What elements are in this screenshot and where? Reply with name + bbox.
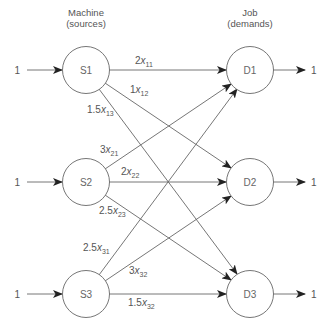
- edge-label-x13: 1.5x13: [87, 104, 114, 117]
- demand-label-d1: 1: [311, 65, 317, 76]
- demands-header-line2: (demands): [227, 18, 272, 29]
- demand-node-d3: D3: [227, 271, 274, 318]
- edge-label-x31: 2.5x31: [83, 242, 110, 255]
- edge-s1-d2: [105, 83, 231, 168]
- node-label: D1: [244, 65, 257, 76]
- edge-s2-d3: [105, 195, 231, 280]
- node-label: S3: [80, 289, 93, 300]
- sources-header-line2: (sources): [66, 18, 106, 29]
- transportation-network-diagram: Machine (sources) Job (demands) 1 1 1 1 …: [0, 0, 330, 328]
- node-label: S1: [80, 65, 93, 76]
- edge-label-x21: 3x21: [100, 144, 118, 157]
- node-label: S2: [80, 177, 93, 188]
- demand-label-d2: 1: [311, 177, 317, 188]
- node-label: D2: [244, 177, 257, 188]
- sources-header: Machine (sources): [66, 7, 106, 29]
- source-node-s2: S2: [63, 159, 110, 206]
- demand-node-d2: D2: [227, 159, 274, 206]
- source-node-s1: S1: [63, 47, 110, 94]
- edge-s3-d2: [105, 196, 231, 281]
- edge-label-x23: 2.5x23: [99, 205, 126, 218]
- demands-header: Job (demands): [227, 7, 272, 29]
- demand-node-d1: D1: [227, 47, 274, 94]
- edge-label-x12: 1x12: [130, 84, 148, 97]
- edge-label-x33: 1.5x32: [128, 297, 155, 310]
- edge-s2-d1: [105, 84, 231, 169]
- node-label: D3: [244, 289, 257, 300]
- supply-label-s3: 1: [14, 289, 20, 300]
- edge-label-x22: 2x22: [121, 166, 139, 179]
- edge-label-x11: 2x11: [135, 55, 153, 68]
- demand-label-d3: 1: [311, 289, 317, 300]
- demands-header-line1: Job: [242, 7, 257, 18]
- supply-label-s2: 1: [14, 177, 20, 188]
- edge-label-x32: 3x32: [129, 265, 147, 278]
- sources-header-line1: Machine: [68, 7, 104, 18]
- supply-label-s1: 1: [14, 65, 20, 76]
- source-node-s3: S3: [63, 271, 110, 318]
